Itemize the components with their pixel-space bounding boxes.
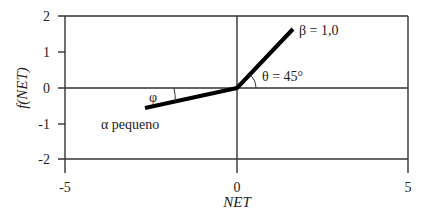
x-tick-label: -5 (59, 180, 71, 195)
y-tick-label: 0 (43, 81, 50, 96)
y-tick-label: 2 (43, 9, 50, 24)
y-tick-label: -1 (38, 117, 50, 132)
phi-arc (174, 88, 175, 101)
x-tick-label: 5 (405, 180, 412, 195)
phi-annotation: φ (149, 90, 157, 105)
chart: 2 1 0 -1 -2 -5 0 5 NET f(NET) β = 1,0 θ … (0, 0, 423, 218)
y-axis-title: f(NET) (14, 67, 31, 109)
alpha-annotation: α pequeno (101, 117, 159, 132)
y-tick-label: -2 (38, 152, 50, 167)
y-tick-label: 1 (43, 45, 50, 60)
x-axis-title: NET (222, 194, 252, 210)
beta-annotation: β = 1,0 (299, 23, 339, 38)
x-tick-label: 0 (234, 180, 241, 195)
theta-annotation: θ = 45° (262, 69, 303, 84)
